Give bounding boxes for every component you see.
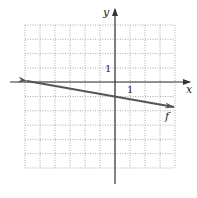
grid: [25, 25, 175, 168]
function-label: f: [164, 110, 171, 123]
x-tick-label: 1: [127, 84, 133, 95]
y-tick-label: 1: [105, 63, 111, 74]
graph: y x 1 1 f: [0, 0, 197, 198]
y-axis-label: y: [102, 6, 110, 19]
x-axis-label: x: [186, 83, 193, 96]
